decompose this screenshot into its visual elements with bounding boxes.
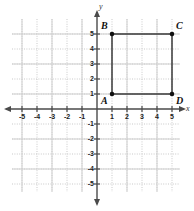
coordinate-plane-canvas <box>0 0 194 211</box>
coordinate-plane-figure: -5 -4 -3 -2 -1 1 2 3 4 5 5 4 3 2 1 -1 -2… <box>0 0 194 211</box>
x-tick-label--3: -3 <box>46 113 58 120</box>
x-tick-label-1: 1 <box>107 113 117 120</box>
x-tick-label-4: 4 <box>152 113 162 120</box>
x-tick-label-3: 3 <box>137 113 147 120</box>
point-d-dot <box>170 92 175 97</box>
x-tick-label--5: -5 <box>16 113 28 120</box>
y-tick-label--2: -2 <box>80 135 94 142</box>
y-tick-label--3: -3 <box>80 150 94 157</box>
y-axis-down-arrow <box>94 199 100 206</box>
y-tick-label--4: -4 <box>80 165 94 172</box>
point-label-d: D <box>176 96 183 106</box>
y-tick-label-2: 2 <box>82 75 94 82</box>
y-tick-label-1: 1 <box>82 90 94 97</box>
x-tick-label--4: -4 <box>31 113 43 120</box>
x-tick-label--2: -2 <box>61 113 73 120</box>
axis-arrowheads <box>4 10 186 206</box>
point-a-dot <box>110 92 115 97</box>
point-label-b: B <box>101 21 108 31</box>
y-axis-up-arrow <box>94 10 100 17</box>
x-tick-label-5: 5 <box>167 113 177 120</box>
y-tick-label--1: -1 <box>80 120 94 127</box>
point-b-dot <box>110 32 115 37</box>
point-label-c: C <box>176 21 183 31</box>
point-label-a: A <box>101 96 108 106</box>
y-tick-label-4: 4 <box>82 45 94 52</box>
y-tick-label-5: 5 <box>82 30 94 37</box>
y-tick-label-3: 3 <box>82 60 94 67</box>
x-axis-right-arrow <box>179 106 186 112</box>
point-c-dot <box>170 32 175 37</box>
x-axis-left-arrow <box>4 106 11 112</box>
grid-lines <box>12 19 180 192</box>
y-axis-name: y <box>99 3 103 11</box>
x-axis-name: x <box>186 105 190 113</box>
x-tick-label--1: -1 <box>76 113 88 120</box>
x-tick-label-2: 2 <box>122 113 132 120</box>
y-tick-label--5: -5 <box>80 180 94 187</box>
